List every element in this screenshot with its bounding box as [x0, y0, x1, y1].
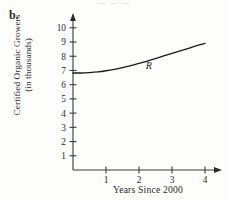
y-tick-label: 7 — [61, 66, 66, 76]
y-tick-label: 3 — [61, 123, 66, 133]
y-tick-label: 2 — [61, 137, 66, 147]
y-tick-label: 6 — [61, 80, 66, 90]
y-tick-label: 10 — [57, 23, 67, 33]
y-tick-label: 4 — [61, 109, 66, 119]
curve-r — [73, 43, 205, 73]
y-axis — [70, 13, 76, 170]
x-tick-label: 3 — [170, 175, 175, 185]
figure-container: — — — b. Certified Organic Growers (in t… — [0, 0, 226, 201]
x-tick-group: 1234 — [104, 167, 208, 186]
y-tick-label: 1 — [61, 151, 66, 161]
y-axis-arrowhead — [70, 13, 76, 21]
y-tick-label: 5 — [61, 94, 66, 104]
plot-area: 12345678910 1234 R — [0, 0, 226, 201]
y-tick-label: 9 — [61, 37, 66, 47]
x-tick-label: 2 — [137, 175, 142, 185]
x-tick-label: 1 — [104, 175, 109, 185]
x-axis-arrowhead — [214, 167, 222, 173]
x-tick-label: 4 — [203, 175, 208, 185]
curve-label-r: R — [145, 60, 152, 71]
y-tick-label: 8 — [61, 52, 66, 62]
x-axis — [73, 167, 222, 173]
